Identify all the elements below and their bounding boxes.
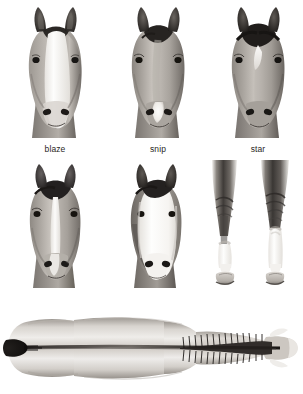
figure-label-star: star [213, 144, 303, 154]
figure-star: star [213, 4, 303, 138]
figure-white-face: white face [110, 162, 202, 288]
figure-stocking: stocking [251, 160, 299, 288]
horse-head-star-illustration [213, 4, 303, 138]
horse-head-blaze-illustration [10, 4, 100, 138]
horse-leg-stocking-illustration [251, 160, 299, 288]
figure-blaze: blaze [10, 4, 100, 138]
horse-leg-sock-illustration [203, 160, 249, 288]
horse-head-snip-illustration [113, 4, 203, 138]
figure-label-blaze: blaze [10, 144, 100, 154]
horse-head-stripe-illustration [10, 162, 100, 288]
figure-dorsal-view [4, 304, 300, 392]
horse-body-top-view-illustration [4, 304, 300, 392]
figure-label-snip: snip [113, 144, 203, 154]
horse-head-white-face-illustration [110, 162, 202, 288]
illustration-plate: blaze [0, 0, 303, 394]
figure-snip: snip [113, 4, 203, 138]
figure-sock: sock [203, 160, 249, 288]
figure-stripe: stripe [10, 162, 100, 288]
